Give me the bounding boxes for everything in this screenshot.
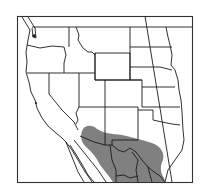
sf-bay-mark	[35, 102, 37, 104]
puget-sound-mark	[32, 34, 36, 38]
range-map	[0, 0, 200, 195]
map-svg	[0, 0, 200, 195]
